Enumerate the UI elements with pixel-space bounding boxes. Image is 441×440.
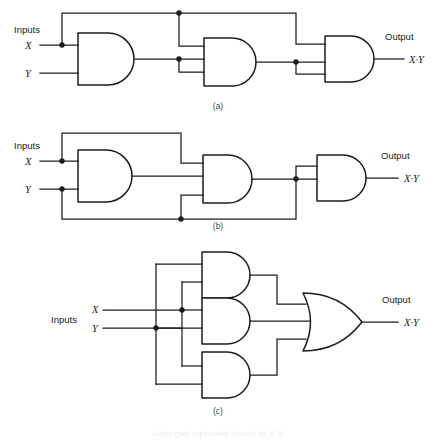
junction-dot <box>293 176 298 181</box>
junction-dot <box>153 325 158 330</box>
and-gate-c2 <box>202 298 250 344</box>
panel-a-input-y-label: Y <box>25 68 32 79</box>
and-gate-b3 <box>317 155 366 201</box>
junction-dot <box>176 10 181 15</box>
panel-b-input-y-label: Y <box>25 184 32 195</box>
panel-c-inputs-label: Inputs <box>51 314 77 325</box>
panel-c-tag: (c) <box>213 406 223 416</box>
panel-b-output-label: Output <box>381 150 410 161</box>
panel-b: Inputs X Y Output X·Y (b) <box>14 133 420 231</box>
and-gate-c1 <box>202 252 250 298</box>
junction-dot <box>59 158 64 163</box>
junction-dot <box>59 42 64 47</box>
wire-a2-lower-stub <box>179 59 204 72</box>
panel-c-output-label: Output <box>382 294 411 305</box>
wire-a-mid-drop <box>179 13 204 46</box>
and-gate-c3 <box>202 352 250 398</box>
panel-c-input-y-label: Y <box>92 323 99 334</box>
wire-b-mid-rise <box>181 195 203 219</box>
panel-c: Inputs X Y Output X·Y (c) <box>51 252 420 416</box>
panel-c-output-expr: X·Y <box>403 317 420 328</box>
panel-a-input-x-label: X <box>24 40 32 51</box>
figure-caption-remnant: Logic gate equivalent circuits for X·Y <box>153 429 284 438</box>
panel-c-input-x-label: X <box>91 304 99 315</box>
junction-dot <box>179 307 184 312</box>
panel-a-output-expr: X·Y <box>408 54 425 65</box>
wire-a3-lower-stub <box>296 62 325 74</box>
panel-b-output-expr: X·Y <box>403 173 420 184</box>
logic-gate-figure: Inputs X Y Output X·Y (a) <box>0 0 441 440</box>
or-gate-c4 <box>303 293 362 351</box>
panel-a-inputs-label: Inputs <box>14 24 40 35</box>
wire-c3-output <box>250 339 306 375</box>
and-gate-a3 <box>325 36 374 82</box>
logic-diagram-svg: Inputs X Y Output X·Y (a) <box>0 0 441 440</box>
panel-b-inputs-label: Inputs <box>14 140 40 151</box>
wire-c1-output <box>250 275 306 304</box>
junction-dot <box>59 186 64 191</box>
junction-dot <box>293 59 298 64</box>
and-gate-b2 <box>203 155 252 203</box>
and-gate-b1 <box>78 150 132 202</box>
junction-dot <box>176 56 181 61</box>
panel-a-tag: (a) <box>213 101 224 111</box>
and-gate-a1 <box>78 33 134 85</box>
panel-a-output-label: Output <box>385 31 414 42</box>
panel-b-input-x-label: X <box>24 156 32 167</box>
panel-a: Inputs X Y Output X·Y (a) <box>14 10 425 111</box>
junction-dot <box>178 216 183 221</box>
panel-b-tag: (b) <box>213 221 224 231</box>
and-gate-a2 <box>204 38 256 86</box>
